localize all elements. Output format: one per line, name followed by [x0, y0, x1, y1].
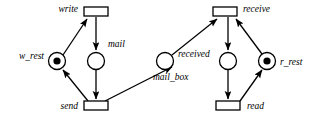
arc-w_rest-to-write: [63, 19, 87, 55]
transition-label-send: send: [61, 101, 79, 111]
transition-label-write: write: [58, 4, 78, 14]
arc-send-to-w_rest: [63, 70, 88, 101]
place-label-received: received: [178, 49, 210, 59]
transition-read: [216, 101, 240, 110]
petri-net-canvas: w_restmailmail_boxreceivedr_restwritesen…: [0, 0, 318, 118]
place-received: [220, 53, 237, 70]
place-mail_box: [157, 53, 174, 70]
places-layer: [49, 53, 276, 70]
token-r_rest: [263, 57, 270, 64]
place-label-mail: mail: [108, 39, 125, 49]
transition-label-read: read: [247, 101, 264, 111]
place-label-mail_box: mail_box: [153, 72, 189, 82]
arc-read-to-r_rest: [240, 70, 262, 101]
transition-receive: [213, 7, 237, 16]
transition-label-receive: receive: [243, 4, 270, 14]
place-label-r_rest: r_rest: [280, 57, 303, 67]
place-mail: [88, 53, 105, 70]
transition-write: [84, 7, 108, 16]
place-label-w_rest: w_rest: [19, 51, 44, 61]
arc-r_rest-to-receive: [236, 19, 262, 54]
token-w_rest: [53, 57, 60, 64]
transition-send: [84, 101, 108, 110]
petri-net-diagram: w_restmailmail_boxreceivedr_restwritesen…: [0, 0, 318, 118]
